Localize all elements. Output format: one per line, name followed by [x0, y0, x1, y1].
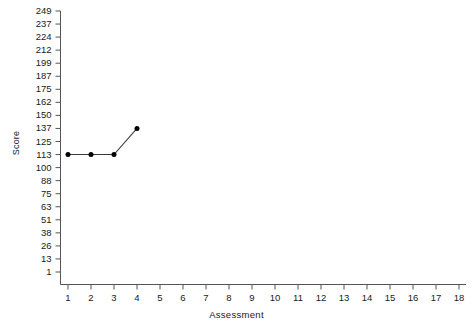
data-point-marker	[112, 152, 117, 157]
y-tick-label: 13	[18, 254, 52, 264]
y-tick-label: 63	[18, 202, 52, 212]
y-tick-label: 88	[18, 176, 52, 186]
x-tick-label: 18	[446, 292, 472, 303]
y-tick-label: 224	[18, 32, 52, 42]
y-tick-label: 26	[18, 241, 52, 251]
y-tick-label: 125	[18, 137, 52, 147]
y-tick-label: 100	[18, 163, 52, 173]
chart-canvas	[0, 0, 473, 335]
y-tick-label: 187	[18, 71, 52, 81]
y-tick-marks	[56, 11, 61, 272]
line-chart: 1132638516375881001131251371501621751871…	[0, 0, 473, 335]
axis-lines	[61, 11, 467, 285]
y-tick-label: 75	[18, 189, 52, 199]
y-tick-label: 162	[18, 97, 52, 107]
series-markers	[66, 126, 140, 157]
y-tick-label: 237	[18, 19, 52, 29]
data-point-marker	[135, 126, 140, 131]
series-line	[68, 128, 137, 154]
y-axis-title: Score	[11, 113, 21, 173]
x-axis-title: Assessment	[0, 309, 473, 320]
x-tick-marks	[68, 285, 459, 290]
y-tick-label: 212	[18, 45, 52, 55]
y-tick-label: 137	[18, 123, 52, 133]
y-tick-label: 1	[18, 267, 52, 277]
series-polyline	[68, 128, 137, 154]
y-tick-label: 150	[18, 110, 52, 120]
y-tick-label: 175	[18, 84, 52, 94]
y-tick-label: 199	[18, 58, 52, 68]
y-tick-label: 249	[18, 6, 52, 16]
data-point-marker	[66, 152, 71, 157]
y-tick-label: 113	[18, 150, 52, 160]
y-tick-label: 38	[18, 228, 52, 238]
y-tick-label: 51	[18, 215, 52, 225]
data-point-marker	[89, 152, 94, 157]
